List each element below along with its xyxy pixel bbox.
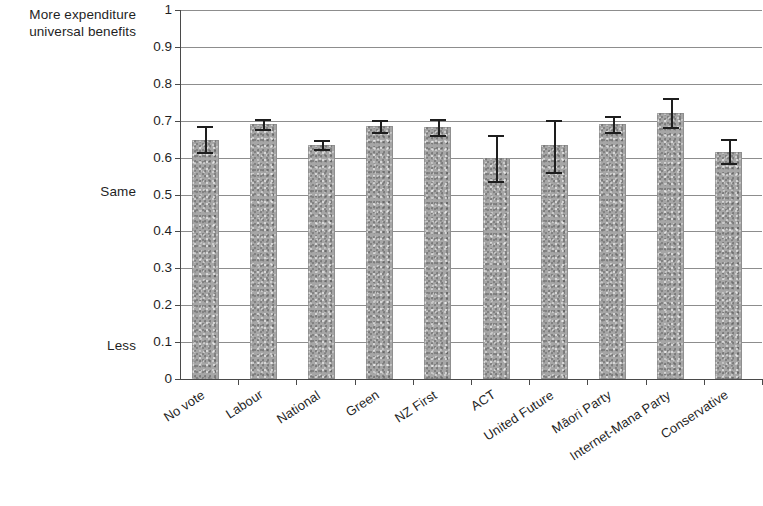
error-bar-cap-upper (488, 135, 504, 137)
error-bar-cap-upper (605, 116, 621, 118)
error-bar-cap-lower (314, 149, 330, 151)
y-axis-tick-label: 0.6 (153, 151, 172, 165)
y-axis-tick-mark (175, 47, 181, 48)
y-axis-tick-labels: 00.10.20.30.40.50.60.70.80.91 (136, 0, 178, 400)
y-axis-tick-mark (175, 305, 181, 306)
error-bar-cap-lower (488, 181, 504, 183)
error-bar (729, 139, 731, 163)
y-axis-tick-mark (175, 121, 181, 122)
error-bar-cap-lower (430, 135, 446, 137)
y-axis-tick-label: 0.9 (153, 40, 172, 54)
error-bar-cap-upper (255, 119, 271, 121)
y-axis-tick-label: 0 (164, 372, 172, 386)
y-axis-tick-mark (175, 342, 181, 343)
x-axis-category-label: ACT (468, 387, 498, 414)
error-bar-cap-upper (197, 126, 213, 128)
y-axis-tick-label: 0.4 (153, 224, 172, 238)
y-axis-tick-label: 1 (164, 3, 172, 17)
y-axis-tick-mark (175, 158, 181, 159)
error-bar-cap-lower (546, 172, 562, 174)
y-axis-tick-label: 0.2 (153, 298, 172, 312)
error-bar-cap-upper (721, 139, 737, 141)
error-bar (613, 116, 615, 132)
bar (599, 124, 626, 379)
error-bar-cap-lower (605, 132, 621, 134)
x-axis-category-labels: No voteLabourNationalGreenNZ FirstACTUni… (180, 385, 762, 503)
error-bar-cap-upper (430, 119, 446, 121)
gridline (180, 84, 762, 85)
bar (424, 127, 451, 379)
plot-area (180, 10, 762, 379)
error-bar-cap-lower (663, 127, 679, 129)
y-axis-tick-label: 0.8 (153, 77, 172, 91)
error-bar-cap-lower (197, 152, 213, 154)
y-axis-tick-mark (175, 10, 181, 11)
axis-annotation-same: Same (4, 183, 136, 200)
y-axis-tick-label: 0.3 (153, 261, 172, 275)
error-bar (438, 119, 440, 135)
bar (657, 113, 684, 379)
y-axis-tick-label: 0.7 (153, 114, 172, 128)
bar (715, 152, 742, 379)
error-bar (496, 135, 498, 181)
error-bar-cap-upper (546, 120, 562, 122)
x-axis-category-label: Green (343, 387, 382, 420)
x-axis-category-label: NZ First (392, 387, 440, 425)
y-axis-tick-mark (175, 268, 181, 269)
gridline (180, 10, 762, 11)
error-bar (554, 120, 556, 172)
axis-annotation-less: Less (4, 337, 136, 354)
axis-annotation-more-expenditure: More expenditure universal benefits (4, 6, 136, 40)
bar (250, 124, 277, 379)
bar (483, 158, 510, 379)
error-bar (205, 126, 207, 152)
error-bar-cap-upper (314, 140, 330, 142)
bar (192, 140, 219, 379)
error-bar (671, 98, 673, 127)
gridline (180, 47, 762, 48)
y-axis-tick-mark (175, 84, 181, 85)
y-axis-tick-mark (175, 231, 181, 232)
y-axis-tick-mark (175, 379, 181, 380)
error-bar-cap-upper (372, 120, 388, 122)
error-bar-cap-lower (255, 129, 271, 131)
error-bar-cap-upper (663, 98, 679, 100)
x-axis-category-label: National (274, 387, 323, 426)
y-axis-tick-mark (175, 195, 181, 196)
x-axis-category-label: Internet-Mana Party (567, 387, 673, 463)
bar (541, 145, 568, 379)
bar (308, 145, 335, 379)
y-axis-tick-label: 0.5 (153, 188, 172, 202)
error-bar-cap-lower (372, 132, 388, 134)
error-bar-cap-lower (721, 163, 737, 165)
y-axis-tick-label: 0.1 (153, 335, 172, 349)
x-axis-category-label: Labour (223, 387, 266, 422)
bar (366, 126, 393, 379)
bar-chart: More expenditure universal benefits Same… (0, 0, 763, 506)
